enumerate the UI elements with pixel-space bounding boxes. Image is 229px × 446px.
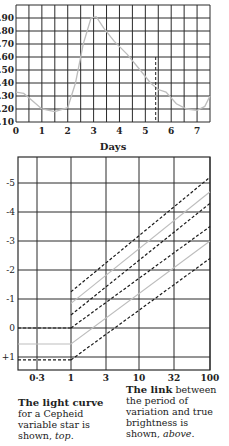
- light-curve-y-axis: .90.80.70.60.50.40.30.20.10: [0, 13, 14, 127]
- y-tick-label: +1: [2, 352, 15, 362]
- relation-lines: [18, 177, 210, 360]
- light-curve-chart: .90.80.70.60.50.40.30.20.10 01234567 Day…: [0, 5, 210, 152]
- magnitude-y-axis: -5-4-3-2-10+1: [2, 178, 16, 362]
- caption-left-text: for a Cepheid variable star is shown,: [18, 408, 90, 441]
- y-tick-label: .50: [0, 65, 14, 75]
- y-tick-label: .90: [0, 13, 14, 23]
- caption-left-italic: top: [55, 430, 71, 441]
- x-tick-label: 7: [194, 126, 200, 136]
- y-tick-label: .30: [0, 91, 14, 101]
- bound-dashed-line: [71, 177, 210, 292]
- light-curve-grid: [16, 5, 210, 122]
- y-tick-label: -3: [6, 236, 15, 246]
- caption-left-end: .: [71, 430, 74, 441]
- light-curve-caption: The light curve for a Cepheid variable s…: [18, 397, 108, 441]
- period-link-caption: The link between the period of variation…: [126, 384, 220, 439]
- plot-frame: [18, 157, 210, 370]
- y-tick-label: .40: [0, 78, 14, 88]
- y-tick-label: -2: [6, 265, 15, 275]
- caption-right-end: .: [191, 428, 194, 439]
- x-tick-label: 4: [116, 126, 122, 136]
- light-curve-x-axis: 01234567: [13, 126, 200, 136]
- x-tick-label: 3: [90, 126, 96, 136]
- x-tick-label: 0·3: [29, 373, 45, 383]
- mean-gray-line: [71, 192, 210, 304]
- days-axis-title: Days: [100, 141, 127, 152]
- y-tick-label: .80: [0, 26, 14, 36]
- figure-canvas: .90.80.70.60.50.40.30.20.10 01234567 Day…: [0, 0, 229, 446]
- x-tick-label: 0: [13, 126, 19, 136]
- caption-left-bold: The light curve: [18, 397, 103, 408]
- bound-dashed-line: [71, 227, 210, 329]
- y-tick-label: .20: [0, 104, 14, 114]
- x-tick-label: 6: [168, 126, 174, 136]
- period-x-axis: 0·3131032100: [29, 373, 219, 383]
- x-tick-label: 32: [168, 373, 181, 383]
- caption-right-italic: above: [163, 428, 191, 439]
- bound-dashed-line: [71, 258, 210, 360]
- y-tick-label: -4: [6, 207, 15, 217]
- y-tick-label: -1: [6, 294, 15, 304]
- period-luminosity-chart: -5-4-3-2-10+1 0·3131032100: [2, 157, 220, 383]
- x-tick-label: 1: [68, 373, 74, 383]
- x-tick-label: 2: [65, 126, 71, 136]
- x-tick-label: 5: [142, 126, 148, 136]
- y-tick-label: .70: [0, 39, 14, 49]
- x-tick-label: 3: [103, 373, 109, 383]
- x-tick-label: 10: [133, 373, 146, 383]
- period-luminosity-grid: [18, 157, 210, 370]
- y-tick-label: -5: [6, 178, 15, 188]
- y-tick-label: 0: [9, 323, 15, 333]
- x-tick-label: 1: [39, 126, 45, 136]
- y-tick-label: .60: [0, 52, 14, 62]
- bound-dashed-line: [71, 203, 210, 315]
- x-tick-label: 100: [201, 373, 220, 383]
- caption-right-bold: The link: [126, 384, 172, 395]
